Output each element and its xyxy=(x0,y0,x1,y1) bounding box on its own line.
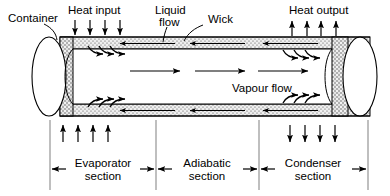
label-vapour-flow: Vapour flow xyxy=(232,82,293,94)
heat-input-arrows-bottom xyxy=(63,125,108,142)
label-liquid-flow-line2: flow xyxy=(159,16,180,28)
heat-output-arrows-bottom xyxy=(290,125,335,142)
pipe-body xyxy=(32,37,377,116)
label-container: Container xyxy=(8,12,58,24)
label-heat-output: Heat output xyxy=(289,4,349,16)
label-heat-input: Heat input xyxy=(68,4,121,16)
heat-input-arrows-top xyxy=(75,20,120,35)
heat-pipe-diagram: Container Heat input Liquid flow Wick He… xyxy=(0,0,390,196)
end-cap-left-ellipse xyxy=(32,37,66,116)
label-condenser-line1: Condenser xyxy=(285,157,341,169)
label-wick: Wick xyxy=(208,13,233,25)
diagram-canvas: Container Heat input Liquid flow Wick He… xyxy=(0,0,390,196)
vapour-core xyxy=(60,49,370,104)
label-liquid-flow-line1: Liquid xyxy=(155,4,186,16)
label-evaporator-line1: Evaporator xyxy=(75,157,131,169)
end-cap-right-ellipse xyxy=(343,37,377,116)
label-adiabatic-line2: section xyxy=(189,170,225,182)
heat-output-arrows-top xyxy=(292,21,336,36)
label-condenser-line2: section xyxy=(295,170,331,182)
label-adiabatic-line1: Adiabatic xyxy=(183,157,231,169)
label-evaporator-line2: section xyxy=(85,170,121,182)
